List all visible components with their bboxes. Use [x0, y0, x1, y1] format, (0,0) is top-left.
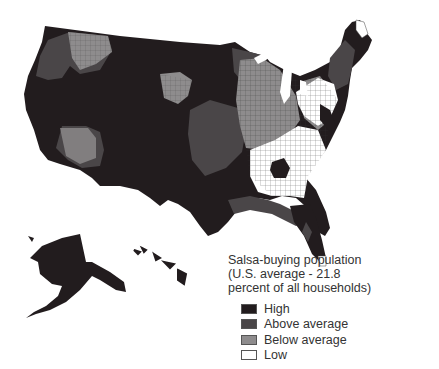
legend-item-above-average: Above average	[241, 317, 433, 333]
legend-label: High	[264, 302, 290, 316]
legend-title: Salsa-buying population	[228, 253, 433, 267]
hawaii	[134, 248, 186, 284]
swatch-high	[241, 304, 257, 314]
legend-label: Above average	[264, 317, 348, 331]
legend-item-low: Low	[241, 348, 433, 364]
swatch-low	[241, 350, 257, 360]
legend-items: High Above average Below average Low	[241, 301, 433, 363]
region-above-average-new-england	[328, 40, 355, 90]
alaska	[26, 234, 126, 318]
legend-item-below-average: Below average	[241, 332, 433, 348]
map-legend: Salsa-buying population (U.S. average - …	[228, 253, 433, 363]
swatch-below-average	[241, 335, 257, 345]
legend-subtitle-line1: (U.S. average - 21.8	[228, 267, 433, 281]
legend-item-high: High	[241, 301, 433, 317]
legend-subtitle-line2: percent of all households)	[228, 281, 433, 295]
legend-label: Below average	[264, 333, 347, 347]
legend-label: Low	[264, 348, 287, 362]
swatch-above-average	[241, 319, 257, 329]
